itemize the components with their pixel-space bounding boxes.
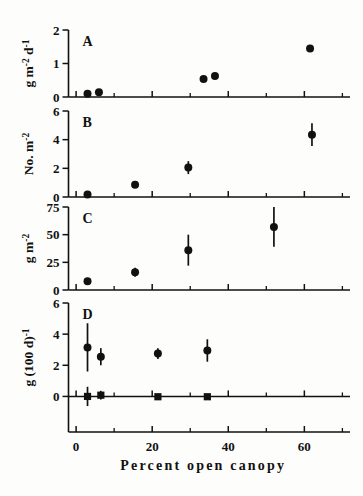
data-point-main (184, 164, 192, 172)
bottom-x-tick-label: 60 (298, 439, 311, 454)
data-point-main (306, 44, 314, 52)
data-point-lower (84, 393, 91, 400)
data-point-main (84, 277, 92, 285)
panel-label-a: A (83, 34, 94, 49)
y-tick-label: 25 (47, 255, 61, 270)
y-tick-label: 50 (47, 227, 60, 242)
y-tick-label: 6 (53, 104, 60, 119)
data-point-lower (97, 392, 104, 399)
panel-label-d: D (83, 307, 93, 322)
y-tick-label: 0 (53, 90, 60, 105)
data-point-main (131, 181, 139, 189)
y-tick-label: 2 (53, 23, 60, 38)
y-axis-title-d: g (100 d)-1 (21, 328, 37, 386)
data-point-main (211, 72, 219, 80)
data-point-main (131, 268, 139, 276)
bottom-x-axis: 0204060 (69, 412, 351, 454)
panel-a: 012A (53, 23, 350, 105)
figure-container: 012A0246B0255075C0246D0204060Percent ope… (0, 0, 363, 496)
y-axis-title-c: g m-2 (21, 234, 37, 264)
data-point-main (184, 246, 192, 254)
multi-panel-scatter-figure: 012A0246B0255075C0246D0204060Percent ope… (0, 0, 363, 496)
y-tick-label: 4 (53, 327, 60, 342)
y-tick-label: 4 (53, 132, 60, 147)
data-point-upper (154, 350, 162, 358)
y-tick-label: 2 (53, 358, 60, 373)
y-tick-label: 2 (53, 161, 60, 176)
panel-label-c: C (83, 211, 93, 226)
data-point-main (270, 223, 278, 231)
y-tick-label: 6 (53, 296, 60, 311)
data-point-main (200, 75, 208, 83)
bottom-x-tick-label: 20 (146, 439, 159, 454)
bottom-x-tick-label: 40 (222, 439, 235, 454)
y-tick-label: 0 (53, 389, 60, 404)
x-axis-title: Percent open canopy (120, 458, 286, 473)
bottom-x-tick-label: 0 (73, 439, 80, 454)
data-point-main (308, 131, 316, 139)
y-tick-label: 75 (47, 200, 61, 215)
panel-label-b: B (83, 115, 92, 130)
panel-d: 0246D (53, 296, 350, 412)
panel-c: 0255075C (47, 200, 351, 298)
data-point-lower (204, 393, 211, 400)
y-axis-title-a: g m-2 d-1 (21, 39, 37, 87)
data-point-upper (84, 343, 92, 351)
data-point-lower (154, 393, 161, 400)
y-axis-title-b: No. m-2 (21, 133, 37, 176)
data-point-upper (203, 346, 211, 354)
data-point-main (95, 88, 103, 96)
data-point-main (84, 190, 92, 198)
y-tick-label: 1 (53, 56, 60, 71)
data-point-upper (97, 353, 105, 361)
panel-b: 0246B (53, 104, 350, 205)
data-point-main (84, 90, 92, 98)
